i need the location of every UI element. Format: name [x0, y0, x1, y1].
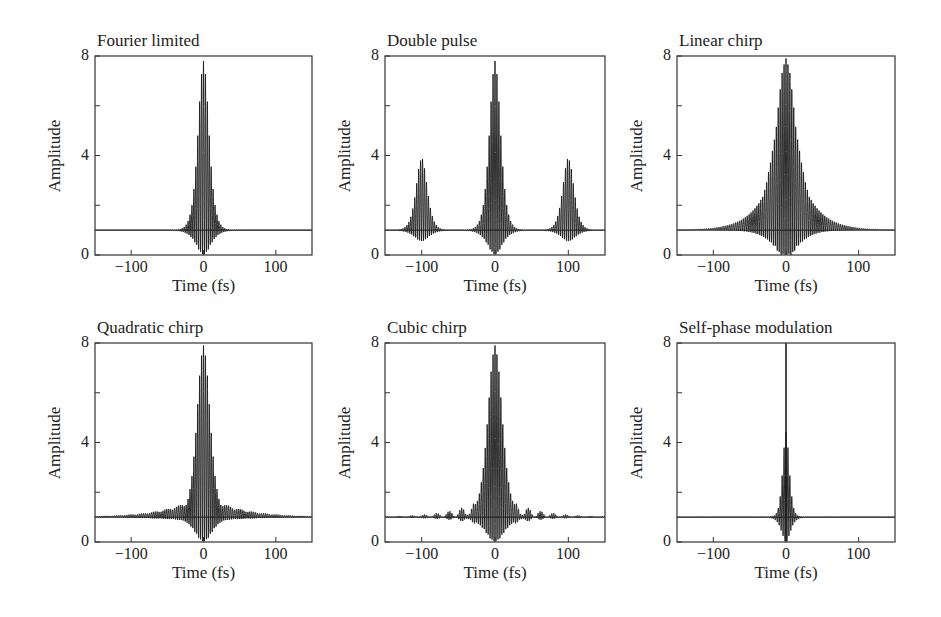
- y-tick-label: 8: [663, 333, 671, 351]
- plot-area: [0, 0, 941, 617]
- y-tick-label: 4: [663, 433, 671, 451]
- y-axis-label: Amplitude: [627, 393, 647, 493]
- x-tick-label: −100: [697, 545, 730, 563]
- y-tick-label: 0: [663, 532, 671, 550]
- x-axis-label: Time (fs): [736, 563, 836, 583]
- x-tick-label: 100: [846, 545, 870, 563]
- x-tick-label: 0: [782, 545, 790, 563]
